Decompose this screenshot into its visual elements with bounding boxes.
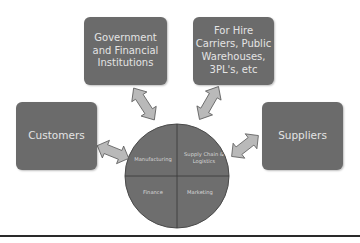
arrow-suppliers-center [226, 128, 264, 164]
suppliers-label: Suppliers [278, 129, 327, 142]
bottom-divider-line [0, 235, 360, 237]
government-label: Government and Financial Institutions [93, 32, 159, 70]
arrow-government-center [126, 83, 162, 125]
quadrant-manufacturing: Manufacturing [128, 156, 178, 163]
quadrant-finance: Finance [133, 189, 173, 196]
for-hire-label: For Hire Carriers, Public Warehouses, 3P… [196, 25, 271, 76]
customers-box: Customers [16, 102, 97, 170]
government-box: Government and Financial Institutions [84, 17, 167, 85]
center-circle [125, 124, 229, 228]
suppliers-box: Suppliers [262, 102, 343, 170]
for-hire-box: For Hire Carriers, Public Warehouses, 3P… [193, 17, 274, 85]
customers-label: Customers [28, 129, 84, 142]
arrow-forhire-center [192, 82, 227, 124]
quadrant-marketing: Marketing [180, 189, 220, 196]
quadrant-supply-chain-logistics: Supply Chain & Logistics [178, 151, 230, 165]
